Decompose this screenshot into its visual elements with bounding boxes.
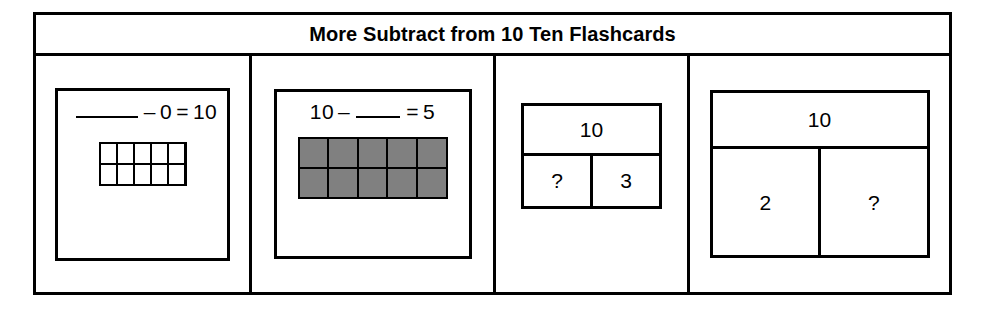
bond-part-left-cell: ?: [524, 156, 590, 206]
equation-line: 10 – = 5: [277, 100, 469, 124]
bond-part-right-value: ?: [868, 192, 880, 213]
ten-frame-empty: [99, 142, 187, 186]
ten-frame-cell: [101, 144, 116, 163]
bond-part-left-value: ?: [551, 170, 563, 191]
equation-second-term: 0: [160, 100, 172, 124]
worksheet-title-bar: More Subtract from 10 Ten Flashcards: [36, 15, 949, 56]
bond-part-right-cell: 3: [590, 156, 659, 206]
equation-left-term: 10: [310, 100, 334, 124]
bond-part-right-cell: ?: [818, 149, 927, 255]
ten-frame-cell: [329, 139, 357, 167]
page-title: More Subtract from 10 Ten Flashcards: [309, 23, 676, 46]
ten-frame-cell: [300, 139, 328, 167]
flashcards-row: – 0 = 10: [36, 56, 949, 292]
ten-frame-cell: [329, 169, 357, 197]
bond-whole-value: 10: [808, 109, 831, 130]
ten-frame-cell: [118, 165, 133, 184]
bond-part-left-cell: 2: [713, 149, 819, 255]
ten-frame-cell: [135, 165, 150, 184]
bond-whole-value: 10: [580, 119, 603, 140]
ten-frame-cell: [152, 165, 167, 184]
ten-frame-cell: [118, 144, 133, 163]
equation-result: 5: [423, 100, 435, 124]
flashcard-cell-4: 10 2 ?: [687, 56, 949, 292]
bond-whole-cell: 10: [713, 93, 927, 149]
ten-frame-cell: [169, 144, 184, 163]
bond-parts-row: 2 ?: [713, 149, 927, 255]
ten-frame-cell: [388, 139, 416, 167]
flashcard-blank-minus-0-equals-10: – 0 = 10: [55, 88, 230, 261]
worksheet-frame: More Subtract from 10 Ten Flashcards – 0…: [33, 12, 952, 295]
bond-whole-cell: 10: [524, 106, 659, 156]
bond-part-left-value: 2: [759, 192, 771, 213]
equation-blank: [356, 116, 400, 118]
flashcard-cell-3: 10 ? 3: [493, 56, 687, 292]
flashcard-cell-1: – 0 = 10: [36, 56, 249, 292]
equation-equals-sign: =: [176, 100, 189, 124]
equation-blank: [76, 116, 138, 118]
equation-result: 10: [193, 100, 217, 124]
ten-frame-cell: [152, 144, 167, 163]
ten-frame-cell: [418, 169, 446, 197]
equation-operator: –: [144, 100, 156, 124]
ten-frame-cell: [388, 169, 416, 197]
equation-line: – 0 = 10: [55, 100, 230, 124]
ten-frame-filled: [298, 137, 448, 199]
bond-part-right-value: 3: [620, 170, 632, 191]
ten-frame-cell: [359, 139, 387, 167]
ten-frame-cell: [359, 169, 387, 197]
flashcard-number-bond-10-2-unknown: 10 2 ?: [710, 90, 930, 258]
flashcard-10-minus-blank-equals-5: 10 – = 5: [274, 89, 472, 259]
ten-frame-cell: [169, 165, 184, 184]
flashcard-cell-2: 10 – = 5: [249, 56, 493, 292]
flashcard-number-bond-10-unknown-3: 10 ? 3: [521, 103, 662, 209]
ten-frame-cell: [300, 169, 328, 197]
ten-frame-cell: [418, 139, 446, 167]
bond-parts-row: ? 3: [524, 156, 659, 206]
ten-frame-cell: [101, 165, 116, 184]
equation-operator: –: [338, 100, 350, 124]
equation-equals-sign: =: [406, 100, 419, 124]
ten-frame-cell: [135, 144, 150, 163]
